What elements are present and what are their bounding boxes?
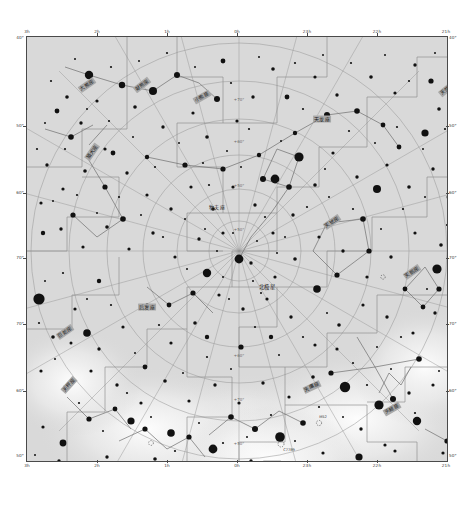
bottom-tick-label: 22h xyxy=(373,464,381,468)
bottom-tick-label: 2h xyxy=(94,464,100,468)
left-tick xyxy=(23,391,26,392)
right-tick-label: 60° xyxy=(449,389,457,393)
constellation-label-cassiopeia: 仙后座 xyxy=(263,461,281,463)
constellation-label-bootes: 牧夫座 xyxy=(208,204,226,211)
bottom-tick xyxy=(167,460,168,463)
right-tick-label: 60° xyxy=(449,191,457,195)
top-tick xyxy=(377,33,378,36)
top-tick-label: 3h xyxy=(24,30,30,34)
left-tick xyxy=(23,258,26,259)
left-tick xyxy=(23,193,26,194)
left-tick-label: 40° xyxy=(16,36,24,40)
bottom-tick xyxy=(377,460,378,463)
bottom-tick-label: 0h xyxy=(234,464,240,468)
bottom-tick xyxy=(307,460,308,463)
bottom-tick xyxy=(97,460,98,463)
right-tick xyxy=(446,391,449,392)
left-tick xyxy=(23,324,26,325)
deg-label: +60° xyxy=(234,139,244,144)
chart-plot-area: +70° +60° +50° +50° +60° +70° +50° C7789… xyxy=(27,37,447,461)
right-tick xyxy=(446,258,449,259)
bottom-tick-label: 1h xyxy=(164,464,170,468)
left-tick xyxy=(23,126,26,127)
dso-label-c7789: C7789 xyxy=(283,448,295,452)
right-tick-label: 70° xyxy=(449,322,457,326)
top-tick xyxy=(97,33,98,36)
deg-label: +70° xyxy=(234,397,244,402)
right-tick-label: 50° xyxy=(449,124,457,128)
star-chart-page: +70° +60° +50° +50° +60° +70° +50° C7789… xyxy=(0,0,471,507)
bottom-tick-label: 3h xyxy=(24,464,30,468)
deg-label: +60° xyxy=(234,353,244,358)
bottom-tick xyxy=(237,460,238,463)
deg-label: +70° xyxy=(234,97,244,102)
dso-label-m52: M52 xyxy=(319,415,327,419)
chart-frame: +70° +60° +50° +50° +60° +70° +50° C7789… xyxy=(26,36,448,462)
constellation-label-coma: 后发座 xyxy=(138,304,156,311)
deg-label: +50° xyxy=(234,441,244,446)
right-tick xyxy=(446,324,449,325)
constellation-label-draco: 天龙座 xyxy=(313,116,331,123)
top-tick xyxy=(167,33,168,36)
left-tick-label: 50° xyxy=(16,454,24,458)
right-tick xyxy=(446,193,449,194)
milky-way-band xyxy=(27,307,447,461)
right-tick-label: 40° xyxy=(449,36,457,40)
right-tick xyxy=(446,126,449,127)
right-tick-label: 70° xyxy=(449,256,457,260)
top-tick xyxy=(307,33,308,36)
right-tick-label: 50° xyxy=(449,454,457,458)
bottom-tick-label: 23h xyxy=(303,464,311,468)
constellation-label-polaris: 北极星 xyxy=(258,284,276,291)
top-tick-label: 21h xyxy=(442,30,450,34)
bottom-tick-label: 21h xyxy=(442,464,450,468)
top-tick xyxy=(237,33,238,36)
deg-label: +50° xyxy=(234,183,244,188)
deg-label: +50° xyxy=(234,227,244,232)
